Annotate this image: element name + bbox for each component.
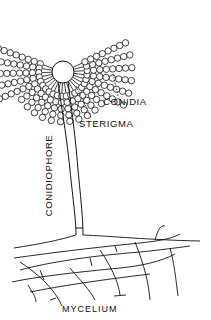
label-conidiophore: CONIDIOPHORE xyxy=(43,135,54,217)
sterigma-line xyxy=(73,63,82,67)
conidium xyxy=(129,65,135,71)
conidium xyxy=(39,114,45,120)
conidium xyxy=(1,47,7,53)
conidium xyxy=(11,79,17,85)
conidium xyxy=(122,77,128,83)
sterigma-line xyxy=(42,69,52,71)
sterigma-line xyxy=(42,74,52,76)
conidium xyxy=(51,105,57,111)
sterigma-line xyxy=(65,83,66,93)
conidium xyxy=(0,70,4,76)
conidium xyxy=(110,66,116,72)
conidium xyxy=(128,77,134,83)
conidium xyxy=(119,88,125,94)
conidium xyxy=(19,54,25,60)
conidium xyxy=(45,103,51,109)
conidium xyxy=(11,61,17,67)
conidium xyxy=(24,77,30,83)
conidium xyxy=(65,105,71,111)
conidium xyxy=(116,65,122,71)
conidium xyxy=(8,91,14,97)
conidium xyxy=(17,62,23,68)
conidium xyxy=(26,83,32,89)
conidium xyxy=(50,111,56,117)
conidium xyxy=(48,117,54,123)
conidium xyxy=(0,96,3,102)
conidium xyxy=(4,60,10,66)
conidium xyxy=(103,74,109,80)
conidium xyxy=(127,52,133,58)
conidium xyxy=(18,96,24,102)
conidium xyxy=(42,108,48,114)
conidium xyxy=(4,70,10,76)
conidium xyxy=(25,56,31,62)
conidium xyxy=(102,58,108,64)
conidium xyxy=(122,65,128,71)
conidium xyxy=(23,70,29,76)
conidium xyxy=(101,82,107,88)
conidium xyxy=(74,110,80,116)
conidium xyxy=(0,82,5,88)
conidium xyxy=(72,104,78,110)
conidium xyxy=(24,104,30,110)
conidium xyxy=(116,76,122,82)
conidium xyxy=(97,73,103,79)
label-mycelium: MYCELIUM xyxy=(62,304,118,314)
sterigma-line xyxy=(74,73,84,74)
conidium xyxy=(5,81,11,87)
conidium xyxy=(108,57,114,63)
conidium xyxy=(17,78,23,84)
conidium xyxy=(107,84,113,90)
conidium xyxy=(120,53,126,59)
conidium xyxy=(31,110,37,116)
aspergillus-illustration xyxy=(0,0,211,320)
conidium xyxy=(97,66,103,72)
label-conidia: CONIDIA xyxy=(103,96,147,107)
conidium xyxy=(92,107,98,113)
conidium xyxy=(7,50,13,56)
sterigma-line xyxy=(74,71,84,72)
conidium xyxy=(23,63,29,69)
diagram-canvas: CONIDIA STERIGMA CONIDIOPHORE MYCELIUM xyxy=(0,0,211,320)
conidium xyxy=(122,40,128,46)
conidium xyxy=(114,55,120,61)
conidium xyxy=(0,59,4,65)
mycelium-network xyxy=(12,226,200,306)
sterigma-line xyxy=(48,80,55,87)
conidium xyxy=(67,118,73,124)
sterigma-line xyxy=(43,65,52,68)
conidium xyxy=(20,86,26,92)
label-sterigma: STERIGMA xyxy=(79,118,133,129)
sterigma-line xyxy=(73,75,83,78)
conidium xyxy=(66,112,72,118)
conidium xyxy=(13,52,19,58)
conidium xyxy=(14,88,20,94)
conidium xyxy=(96,60,102,66)
conidium xyxy=(57,119,63,125)
conidium xyxy=(16,70,22,76)
conidium xyxy=(10,70,16,76)
conidium xyxy=(103,66,109,72)
conidium xyxy=(2,93,8,99)
sterigma-line xyxy=(74,67,84,69)
vesicle xyxy=(52,61,74,83)
conidium xyxy=(95,80,101,86)
